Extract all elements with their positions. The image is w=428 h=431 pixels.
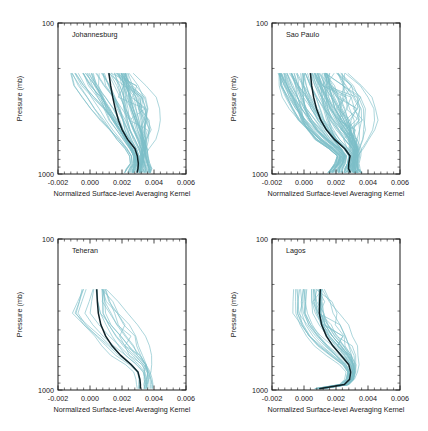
y-axis: 1001000 xyxy=(38,19,186,179)
x-axis-title: Normalized Surface-level Averaging Kerne… xyxy=(54,405,191,414)
panel-title: Teheran xyxy=(72,246,98,255)
y-tick-label: 100 xyxy=(256,235,268,244)
ensemble-profile-line xyxy=(304,289,350,388)
profile-curves xyxy=(71,73,161,172)
y-axis-title: Pressure (mb) xyxy=(15,76,24,122)
panel-johannesburg: -0.0020.0000.0020.0040.0061001000Johanne… xyxy=(0,0,214,215)
y-tick-label: 1000 xyxy=(38,170,54,179)
profile-curves xyxy=(72,289,153,388)
y-tick-label: 100 xyxy=(256,19,268,28)
panel-title: Sao Paulo xyxy=(286,30,319,39)
x-tick-label: 0.002 xyxy=(113,178,131,187)
y-tick-label: 1000 xyxy=(252,170,268,179)
x-tick-label: 0.002 xyxy=(327,178,345,187)
x-tick-label: 0.006 xyxy=(391,394,409,403)
y-tick-label: 1000 xyxy=(252,386,268,395)
panel-lagos: -0.0020.0000.0020.0040.0061001000LagosNo… xyxy=(214,216,428,431)
y-tick-label: 1000 xyxy=(38,386,54,395)
x-tick-label: 0.000 xyxy=(81,178,99,187)
panel-sao-paulo: -0.0020.0000.0020.0040.0061001000Sao Pau… xyxy=(214,0,428,215)
ensemble-profile-line xyxy=(304,289,350,388)
x-tick-label: 0.004 xyxy=(145,178,163,187)
plot-area: -0.0020.0000.0020.0040.0061001000Johanne… xyxy=(0,0,214,215)
averaging-kernel-figure: -0.0020.0000.0020.0040.0061001000Johanne… xyxy=(0,0,428,431)
x-tick-label: 0.002 xyxy=(113,394,131,403)
plot-area: -0.0020.0000.0020.0040.0061001000LagosNo… xyxy=(214,216,428,431)
y-tick-label: 100 xyxy=(42,19,54,28)
x-tick-label: 0.006 xyxy=(391,178,409,187)
x-axis-title: Normalized Surface-level Averaging Kerne… xyxy=(268,405,405,414)
x-tick-label: 0.002 xyxy=(327,394,345,403)
x-axis: -0.0020.0000.0020.0040.006 xyxy=(48,23,195,187)
x-tick-label: 0.000 xyxy=(295,394,313,403)
y-axis-title: Pressure (mb) xyxy=(15,292,24,338)
x-axis-title: Normalized Surface-level Averaging Kerne… xyxy=(54,189,191,198)
x-axis: -0.0020.0000.0020.0040.006 xyxy=(262,239,409,403)
y-axis-title: Pressure (mb) xyxy=(229,76,238,122)
x-tick-label: 0.000 xyxy=(295,178,313,187)
x-tick-label: 0.004 xyxy=(145,394,163,403)
x-axis-title: Normalized Surface-level Averaging Kerne… xyxy=(268,189,405,198)
profile-curves xyxy=(278,73,378,172)
plot-area: -0.0020.0000.0020.0040.0061001000Teheran… xyxy=(0,216,214,431)
x-tick-label: 0.004 xyxy=(359,394,377,403)
panel-teheran: -0.0020.0000.0020.0040.0061001000Teheran… xyxy=(0,216,214,431)
x-tick-label: 0.004 xyxy=(359,178,377,187)
plot-frame xyxy=(272,239,400,390)
plot-area: -0.0020.0000.0020.0040.0061001000Sao Pau… xyxy=(214,0,428,215)
panel-title: Johannesburg xyxy=(72,30,118,39)
y-axis: 1001000 xyxy=(252,235,400,395)
y-tick-label: 100 xyxy=(42,235,54,244)
x-tick-label: 0.006 xyxy=(177,394,195,403)
x-tick-label: 0.006 xyxy=(177,178,195,187)
y-axis-title: Pressure (mb) xyxy=(229,292,238,338)
x-tick-label: 0.000 xyxy=(81,394,99,403)
profile-curves xyxy=(293,289,359,388)
panel-title: Lagos xyxy=(286,246,306,255)
ensemble-profile-line xyxy=(102,289,148,388)
